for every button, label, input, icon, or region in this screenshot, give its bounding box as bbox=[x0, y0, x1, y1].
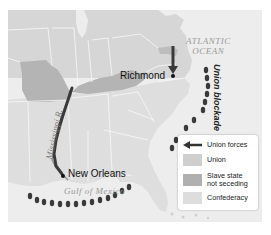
legend-label: Slave state not seceding bbox=[207, 172, 248, 188]
legend-item-union-forces: Union forces bbox=[183, 141, 252, 149]
map-legend: Union forces Union Slave state not seced… bbox=[178, 135, 258, 210]
legend-item-confederacy: Confederacy bbox=[183, 192, 252, 204]
richmond-dot bbox=[171, 74, 175, 78]
confederacy-swatch bbox=[183, 192, 202, 204]
city-label-new-orleans: New Orleans bbox=[68, 168, 126, 179]
legend-label-line2: not seceding bbox=[207, 179, 248, 188]
legend-label: Union bbox=[207, 156, 226, 164]
city-label-richmond: Richmond bbox=[120, 70, 165, 81]
legend-item-slave-state: Slave state not seceding bbox=[183, 172, 252, 188]
new-orleans-dot bbox=[61, 174, 65, 178]
legend-item-union: Union bbox=[183, 154, 228, 166]
slave-state-swatch bbox=[183, 174, 202, 186]
map-frame: ATLANTIC OCEAN Richmond New Orleans Gulf… bbox=[8, 10, 262, 222]
legend-label: Confederacy bbox=[207, 194, 248, 202]
legend-label: Union forces bbox=[207, 141, 247, 149]
atlantic-label-line2: OCEAN bbox=[186, 46, 231, 56]
union-swatch bbox=[183, 154, 202, 166]
atlantic-label-line1: ATLANTIC bbox=[186, 36, 231, 46]
gulf-of-mexico-label: Gulf of Mexico bbox=[64, 186, 125, 196]
atlantic-ocean-label: ATLANTIC OCEAN bbox=[186, 36, 231, 56]
union-blockade-label: Union blockade bbox=[212, 64, 222, 131]
arrow-left-icon bbox=[183, 141, 202, 149]
